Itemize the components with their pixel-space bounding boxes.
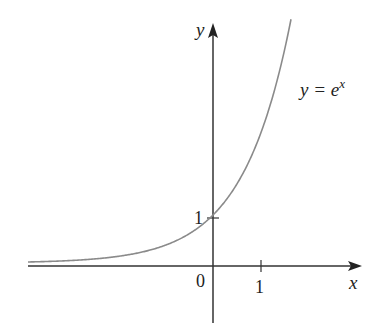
- exponential-curve: [28, 19, 291, 262]
- function-label: y = ex: [298, 76, 345, 100]
- exponential-graph: y x 0 1 1 y = ex: [0, 0, 391, 323]
- origin-label: 0: [196, 271, 205, 291]
- y-axis-label: y: [194, 19, 205, 40]
- y-tick-label: 1: [194, 208, 203, 228]
- x-tick-label: 1: [255, 277, 264, 297]
- x-axis-label: x: [348, 272, 358, 293]
